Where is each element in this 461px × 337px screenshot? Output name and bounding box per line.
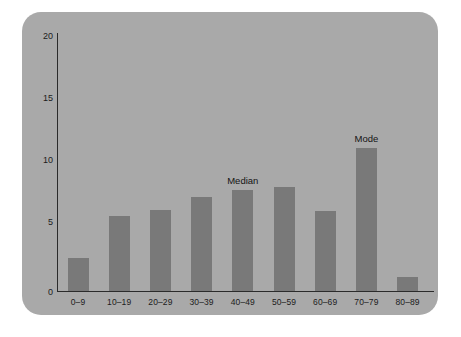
x-tick-label: 80–89 xyxy=(396,297,420,307)
bar xyxy=(356,148,377,291)
bars-layer xyxy=(22,12,438,315)
x-tick-label: 20–29 xyxy=(148,297,172,307)
bar-annotation-median: Median xyxy=(227,175,258,186)
bar xyxy=(191,197,212,291)
x-tick-label: 0–9 xyxy=(71,297,85,307)
bar xyxy=(232,190,253,291)
x-tick-label: 30–39 xyxy=(190,297,214,307)
x-tick-label: 40–49 xyxy=(231,297,255,307)
x-tick-label: 60–69 xyxy=(313,297,337,307)
bar xyxy=(109,216,130,291)
bar-annotation-mode: Mode xyxy=(355,133,379,144)
x-tick-label: 10–19 xyxy=(107,297,131,307)
plot-area: 20 15 10 5 0 0–910–1920–2930–3940–4950–5… xyxy=(22,12,438,315)
bar xyxy=(274,187,295,291)
x-tick-label: 50–59 xyxy=(272,297,296,307)
bar xyxy=(68,258,89,291)
bar xyxy=(150,210,171,291)
bar xyxy=(315,211,336,291)
x-tick-label: 70–79 xyxy=(354,297,378,307)
bar xyxy=(397,277,418,291)
chart-card: 20 15 10 5 0 0–910–1920–2930–3940–4950–5… xyxy=(22,12,438,315)
